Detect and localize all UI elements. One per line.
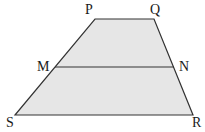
trapezoid-diagram: P Q M N S R (0, 0, 205, 132)
vertex-label-p: P (85, 2, 93, 17)
vertex-label-s: S (6, 115, 14, 130)
vertex-label-q: Q (150, 2, 160, 17)
vertex-label-r: R (192, 115, 202, 130)
vertex-label-m: M (37, 59, 50, 74)
diagram-canvas: P Q M N S R (0, 0, 205, 132)
vertex-label-n: N (179, 59, 189, 74)
